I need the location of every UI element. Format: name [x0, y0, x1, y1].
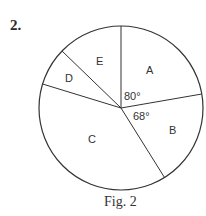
pie-chart: A B C D E 80° 68°: [0, 0, 206, 216]
slice-label-b: B: [169, 124, 176, 136]
figure-caption: Fig. 2: [104, 194, 137, 210]
angle-label-a: 80°: [124, 90, 141, 102]
angle-label-b: 68°: [133, 110, 150, 122]
slice-label-d: D: [65, 72, 73, 84]
slice-label-a: A: [146, 64, 154, 76]
slice-label-e: E: [96, 55, 103, 67]
slice-label-c: C: [88, 133, 96, 145]
